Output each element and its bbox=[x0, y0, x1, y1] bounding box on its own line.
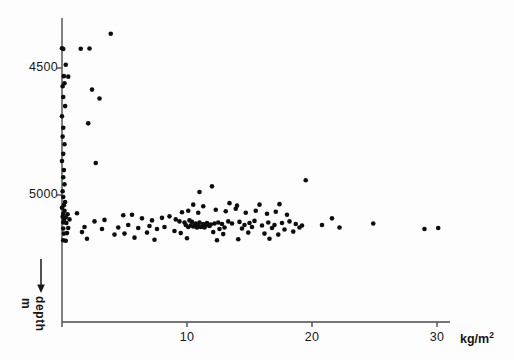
x-axis-title-superscript: 2 bbox=[489, 330, 494, 340]
data-point bbox=[97, 96, 102, 101]
data-point bbox=[320, 223, 325, 228]
data-point bbox=[223, 209, 228, 214]
data-point bbox=[112, 232, 117, 237]
y-axis-unit-label: m bbox=[19, 298, 33, 309]
data-point bbox=[121, 213, 126, 218]
data-point bbox=[172, 229, 177, 234]
data-point bbox=[92, 219, 97, 224]
data-point bbox=[222, 225, 227, 230]
data-point bbox=[371, 221, 376, 226]
data-point bbox=[337, 225, 342, 230]
data-point bbox=[61, 195, 66, 200]
data-point bbox=[132, 235, 137, 240]
data-point bbox=[246, 230, 251, 235]
data-point bbox=[75, 211, 80, 216]
data-point bbox=[130, 213, 135, 218]
data-point bbox=[62, 74, 67, 79]
data-point bbox=[276, 232, 281, 237]
data-point bbox=[116, 225, 121, 230]
data-point bbox=[215, 238, 220, 243]
data-point bbox=[65, 231, 70, 236]
y-tick-label: 5000 bbox=[14, 187, 58, 201]
data-point bbox=[202, 225, 207, 230]
x-tick-label: 30 bbox=[412, 330, 462, 344]
data-point bbox=[62, 142, 67, 147]
data-point bbox=[210, 184, 215, 189]
data-point bbox=[201, 204, 206, 209]
data-point bbox=[436, 226, 441, 231]
data-point bbox=[197, 190, 202, 195]
data-point bbox=[93, 161, 98, 166]
data-point bbox=[287, 219, 292, 224]
data-point bbox=[177, 219, 182, 224]
data-point bbox=[167, 214, 172, 219]
data-point bbox=[66, 74, 71, 79]
data-point bbox=[126, 223, 131, 228]
data-point bbox=[291, 229, 296, 234]
data-point bbox=[61, 175, 66, 180]
data-point bbox=[227, 201, 232, 206]
data-point bbox=[330, 216, 335, 221]
plot-canvas bbox=[0, 0, 514, 360]
data-point bbox=[61, 95, 66, 100]
data-point bbox=[108, 31, 113, 36]
data-point bbox=[61, 226, 66, 231]
data-point bbox=[66, 226, 71, 231]
data-point bbox=[152, 237, 157, 242]
axes-group bbox=[62, 18, 450, 322]
data-point bbox=[265, 212, 270, 217]
data-point bbox=[186, 208, 191, 213]
data-point bbox=[64, 221, 69, 226]
data-point bbox=[237, 220, 242, 225]
data-point bbox=[243, 210, 248, 215]
data-points-group bbox=[60, 31, 441, 243]
data-point bbox=[63, 104, 68, 109]
data-point bbox=[253, 208, 258, 213]
scatter-plot-figure: 45005000 102030 kg/m2 depth m bbox=[0, 0, 514, 360]
data-point bbox=[180, 210, 185, 215]
data-point bbox=[61, 125, 66, 130]
data-point bbox=[147, 224, 152, 229]
data-point bbox=[60, 189, 65, 194]
data-point bbox=[257, 202, 262, 207]
data-point bbox=[230, 221, 235, 226]
data-point bbox=[273, 209, 278, 214]
data-point bbox=[422, 227, 427, 232]
data-point bbox=[90, 87, 95, 92]
data-point bbox=[250, 225, 255, 230]
data-point bbox=[63, 62, 68, 67]
data-point bbox=[260, 223, 265, 228]
data-point bbox=[240, 226, 245, 231]
data-point bbox=[267, 236, 272, 241]
data-point bbox=[162, 225, 167, 230]
data-point bbox=[87, 46, 92, 51]
data-point bbox=[78, 46, 83, 51]
data-point bbox=[86, 121, 91, 126]
data-point bbox=[297, 225, 302, 230]
data-point bbox=[150, 218, 155, 223]
data-point bbox=[60, 84, 65, 89]
data-point bbox=[60, 134, 65, 139]
data-point bbox=[100, 227, 105, 232]
depth-arrow-icon bbox=[37, 259, 45, 293]
data-point bbox=[211, 230, 216, 235]
data-point bbox=[67, 217, 72, 222]
data-point bbox=[247, 221, 252, 226]
data-point bbox=[191, 202, 196, 207]
data-point bbox=[262, 231, 267, 236]
x-tick-label: 10 bbox=[162, 330, 212, 344]
y-axis-title: depth bbox=[33, 296, 47, 332]
data-point bbox=[196, 210, 201, 215]
data-point bbox=[60, 159, 65, 164]
data-point bbox=[185, 236, 190, 241]
data-point bbox=[221, 232, 226, 237]
data-point bbox=[277, 202, 282, 207]
data-point bbox=[252, 219, 257, 224]
data-point bbox=[266, 220, 271, 225]
data-point bbox=[145, 230, 150, 235]
y-tick-label: 4500 bbox=[14, 60, 58, 74]
data-point bbox=[282, 227, 287, 232]
x-axis-title-base: kg/m bbox=[460, 332, 489, 346]
data-point bbox=[285, 213, 290, 218]
data-point bbox=[207, 224, 212, 229]
